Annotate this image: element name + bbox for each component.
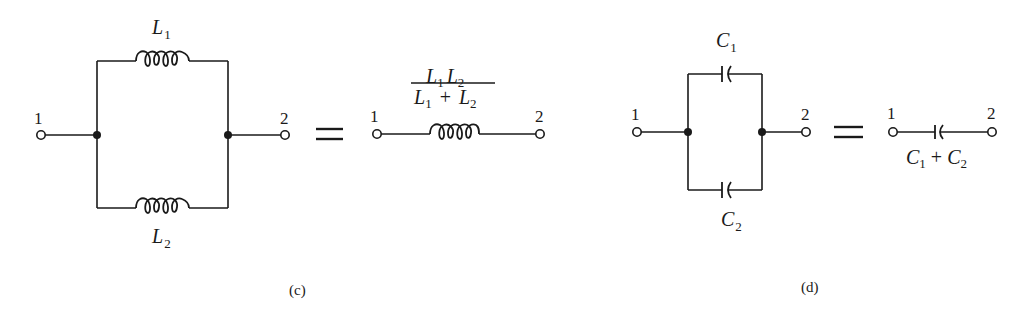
inductor-l2-label: L2	[151, 225, 171, 251]
capacitor-c1-icon	[688, 66, 762, 82]
equivalent-terminal-2	[988, 128, 996, 136]
terminal-1-label: 1	[631, 105, 640, 124]
inductor-l1-label: L1	[151, 16, 171, 42]
equivalent-capacitor-d: 1 2 C1+C2	[887, 104, 996, 171]
equals-sign-d	[834, 127, 863, 137]
equivalent-inductor-c: 1 2 L1L2 L1+L2	[370, 65, 544, 139]
equivalent-terminal-1-label: 1	[887, 104, 896, 123]
junction-node-right	[758, 128, 766, 136]
terminal-2	[281, 131, 289, 139]
equivalent-terminal-2	[536, 130, 544, 138]
terminal-1-label: 1	[34, 109, 43, 128]
figure-c: 1 2 L1 L2 1 2 L1L2 L1+L2 (c)	[34, 16, 544, 299]
terminal-2	[802, 128, 810, 136]
terminal-1	[37, 131, 45, 139]
equivalent-terminal-2-label: 2	[535, 107, 544, 126]
capacitor-c2-icon	[688, 182, 762, 198]
equivalent-terminal-2-label: 2	[987, 104, 996, 123]
terminal-2-label: 2	[801, 105, 810, 124]
equivalent-terminal-1-label: 1	[370, 107, 379, 126]
junction-node-right	[224, 131, 232, 139]
capacitor-c1-label: C1	[716, 29, 737, 55]
formula-denominator: L1+L2	[413, 86, 477, 111]
equals-sign-c	[316, 129, 343, 139]
equivalent-terminal-1	[373, 130, 381, 138]
inductor-l2-icon	[97, 198, 228, 213]
junction-node-left	[93, 131, 101, 139]
figure-d-caption: (d)	[801, 279, 819, 296]
figure-c-caption: (c)	[289, 282, 306, 299]
inductor-l1-icon	[97, 51, 228, 66]
terminal-2-label: 2	[280, 109, 289, 128]
parallel-capacitance-formula: C1+C2	[906, 146, 967, 171]
capacitor-c2-label: C2	[721, 208, 742, 234]
circuit-diagram: 1 2 L1 L2 1 2 L1L2 L1+L2 (c)	[0, 0, 1029, 310]
terminal-1	[633, 128, 641, 136]
figure-d: 1 2 C1 C2 1 2 C1+C2 (d)	[631, 29, 996, 296]
parallel-inductance-formula: L1L2 L1+L2	[411, 65, 495, 111]
equivalent-terminal-1	[889, 128, 897, 136]
junction-node-left	[684, 128, 692, 136]
inductor-equivalent-icon	[430, 124, 479, 139]
